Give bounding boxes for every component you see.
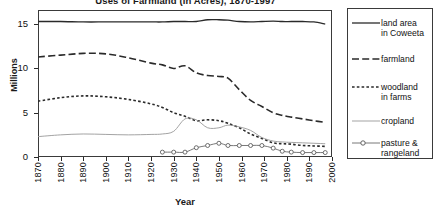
x-tick-label: 1930 [169,162,179,183]
x-tick-label: 1920 [146,162,156,183]
x-tick-label: 1870 [33,162,43,183]
plot-lines [38,10,332,157]
y-axis-label: Millions [9,45,19,105]
x-axis-label: Year [38,196,332,207]
x-tick-label: 1950 [214,162,224,183]
x-tick-mark [38,157,39,161]
legend-item-3[interactable]: cropland [348,115,434,127]
x-tick-label: 1910 [123,162,133,183]
x-tick-mark [332,157,333,161]
legend-label: land area in Coweeta [381,17,424,38]
series-line-2 [38,96,325,146]
x-tick-label: 2000 [327,162,337,183]
x-tick-label: 1960 [237,162,247,183]
x-tick-label: 1970 [259,162,269,183]
legend-item-2[interactable]: woodland in farms [348,81,434,102]
x-tick-mark [287,157,288,161]
chart-title: Uses of Farmland (in Acres), 1870-1997 [38,0,333,6]
legend-line-sample-icon [351,81,381,93]
y-tick-label: 5 [2,108,28,117]
x-tick-mark [128,157,129,161]
y-tick-label: 15 [2,19,28,28]
legend-label: farmland [381,53,414,64]
x-tick-label: 1990 [304,162,314,183]
x-tick-mark [196,157,197,161]
legend-label: woodland in farms [381,81,418,102]
x-tick-label: 1890 [78,162,88,183]
x-tick-label: 1940 [191,162,201,183]
chart-container: Uses of Farmland (in Acres), 1870-1997 M… [0,0,436,216]
x-tick-mark [264,157,265,161]
y-tick-label: 10 [2,63,28,72]
x-tick-mark [106,157,107,161]
x-tick-mark [151,157,152,161]
legend-item-4[interactable]: pasture & rangeland [348,137,434,158]
x-tick-label: 1880 [56,162,66,183]
x-tick-mark [242,157,243,161]
legend-label: pasture & rangeland [381,137,419,158]
x-tick-label: 1980 [282,162,292,183]
x-tick-mark [309,157,310,161]
x-tick-label: 1900 [101,162,111,183]
series-line-1 [38,53,325,122]
legend-item-0[interactable]: land area in Coweeta [348,17,434,38]
legend-line-sample-icon [351,17,381,29]
legend-label: cropland [381,115,414,126]
legend: land area in Coweetafarmlandwoodland in … [347,8,433,159]
legend-line-sample-icon [351,53,381,65]
y-tick-label: 0 [2,152,28,161]
series-line-3 [38,118,325,144]
x-tick-mark [83,157,84,161]
x-tick-mark [219,157,220,161]
series-line-0 [38,20,325,25]
legend-line-sample-icon [351,115,381,127]
x-tick-mark [174,157,175,161]
legend-item-1[interactable]: farmland [348,53,434,65]
x-tick-mark [61,157,62,161]
legend-line-sample-icon [351,137,381,149]
series-line-4 [160,141,327,154]
